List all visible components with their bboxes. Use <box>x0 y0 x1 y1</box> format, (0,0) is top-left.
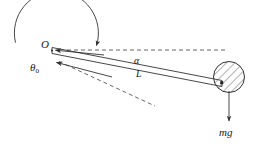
physics-diagram: O θ0 α L mg <box>0 0 264 149</box>
rod-ball-attachment <box>220 81 223 84</box>
theta-subscript: 0 <box>35 67 39 75</box>
pivot-point <box>51 49 53 51</box>
pivot-label: O <box>41 39 49 50</box>
theta0-angle-arrow <box>57 63 113 78</box>
weight-label: mg <box>219 127 232 138</box>
theta0-label: θ0 <box>30 62 39 75</box>
rotation-arc <box>14 0 98 45</box>
ball-mass <box>214 62 245 93</box>
rod <box>52 48 222 87</box>
length-label: L <box>136 69 142 79</box>
alpha-label: α <box>134 56 139 66</box>
